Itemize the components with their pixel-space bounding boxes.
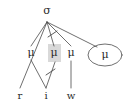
segment-i: i [40,91,52,101]
figure-canvas: σ μ μ μ μ r i w [0,0,125,106]
mu-node-1: μ [25,47,37,58]
strike-mark-upper [48,31,57,37]
edge-sigma-to-mu4 [47,22,97,47]
mu-node-3: μ [65,47,77,58]
edge-mu1-to-i [31,60,46,88]
mu-node-4: μ [99,49,111,60]
sigma-node: σ [41,5,53,16]
segment-r: r [14,91,26,101]
segment-w: w [65,91,77,101]
mu-node-2: μ [48,47,60,58]
edge-mu2-to-i [46,62,55,88]
